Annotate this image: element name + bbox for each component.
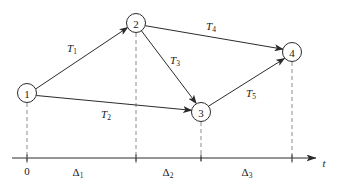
node-3: 3 [192, 103, 211, 122]
edge-label-T4: T4 [206, 20, 216, 34]
edge-line-T3 [142, 31, 197, 103]
edge-label-T1: T1 [67, 42, 77, 56]
graph-nodes: 1 2 3 4 [18, 14, 302, 122]
node-4-label: 4 [289, 47, 295, 59]
edge-label-T2: T2 [101, 108, 111, 122]
edge-line-T2 [36, 96, 191, 111]
time-axis: t 0 Δ1 Δ2 Δ3 [12, 155, 326, 180]
node-1: 1 [18, 84, 37, 103]
axis-origin-label: 0 [24, 165, 30, 177]
edge-line-T5 [209, 58, 285, 106]
interval-label-delta-1: Δ1 [73, 166, 84, 180]
edge-line-T1 [36, 27, 128, 89]
timed-event-graph-figure: T1 T2 T3 T4 T5 1 2 3 4 [0, 0, 337, 187]
interval-label-delta-3: Δ3 [242, 166, 253, 180]
node-4: 4 [283, 43, 302, 62]
diagram-canvas: T1 T2 T3 T4 T5 1 2 3 4 [0, 0, 337, 187]
time-axis-variable-label: t [322, 157, 326, 169]
node-2-label: 2 [133, 18, 139, 30]
edge-label-T5: T5 [246, 87, 256, 101]
interval-label-delta-2: Δ2 [163, 166, 174, 180]
node-2: 2 [127, 14, 146, 33]
edge-label-T3: T3 [170, 54, 180, 68]
node-3-label: 3 [198, 107, 204, 119]
edge-labels: T1 T2 T3 T4 T5 [67, 20, 256, 122]
node-1-label: 1 [24, 88, 30, 100]
